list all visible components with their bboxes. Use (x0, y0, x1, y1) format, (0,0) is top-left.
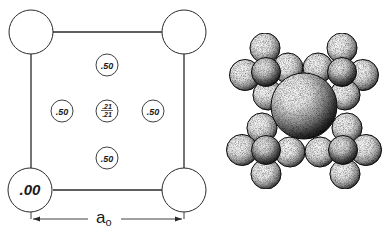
center-label-bottom: .21 (102, 111, 112, 118)
lattice-subscript: o (105, 216, 111, 228)
crystal-diagram: .00 .50 .50 .50 .50 .21 .21 ao (0, 0, 391, 236)
lattice-constant-label: ao (96, 208, 112, 228)
sphere-front (328, 58, 357, 87)
corner-label-bottom-left: .00 (20, 181, 42, 198)
face-label-right: .50 (147, 107, 160, 117)
face-label-bottom: .50 (101, 154, 114, 164)
face-label-left: .50 (56, 107, 69, 117)
central-large-sphere (271, 73, 337, 139)
center-label-top: .21 (102, 103, 112, 110)
arrowhead-left-icon (33, 217, 40, 222)
arrowhead-right-icon (175, 217, 182, 222)
corner-atom-top-right (162, 10, 206, 54)
face-label-top: .50 (101, 61, 114, 71)
sphere-model-panel (227, 33, 382, 189)
corner-atom-bottom-right (162, 168, 206, 212)
sphere-front (252, 58, 281, 87)
corner-atom-top-left (9, 10, 53, 54)
sphere-front (252, 136, 281, 165)
sphere-front (329, 136, 358, 165)
